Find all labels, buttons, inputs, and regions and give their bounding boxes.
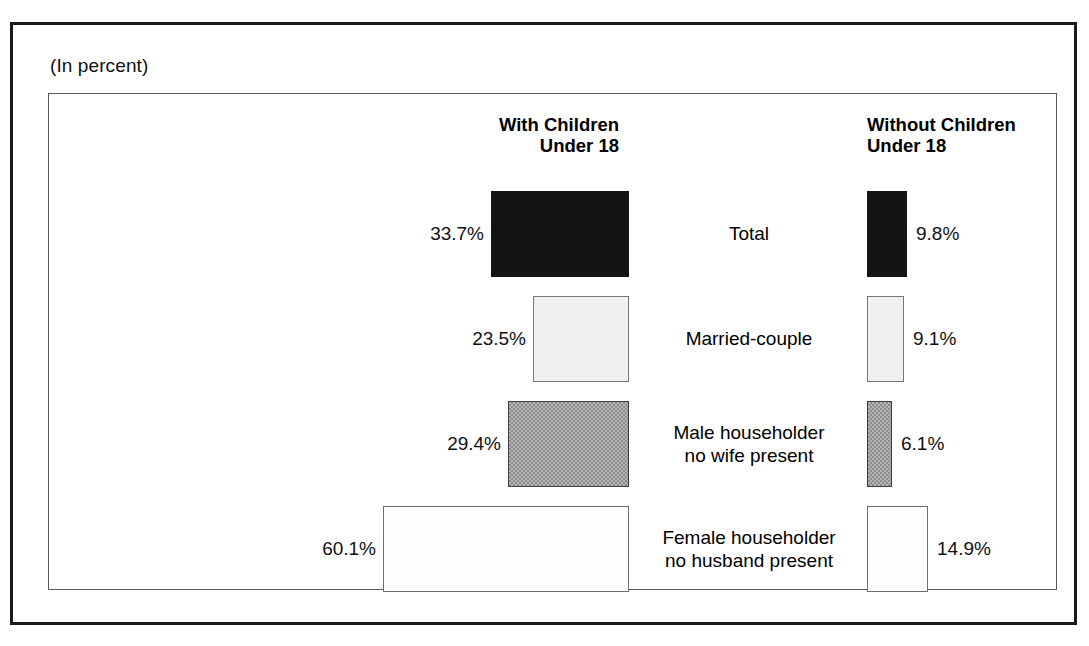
category-label: Female householder no husband present (631, 506, 867, 592)
chart-caption: (In percent) (50, 55, 148, 77)
value-label-left: 60.1% (266, 506, 376, 592)
chart-row: 23.5% Married-couple 9.1% (49, 296, 1056, 382)
value-label-right: 14.9% (937, 506, 1047, 592)
bar-left (383, 506, 629, 592)
chart-row: 60.1% Female householder no husband pres… (49, 506, 1056, 592)
chart-row: 33.7% Total 9.8% (49, 191, 1056, 277)
value-label-right: 9.1% (913, 296, 1023, 382)
value-label-left: 23.5% (416, 296, 526, 382)
figure-frame: (In percent) With Children Under 18 With… (10, 22, 1077, 625)
category-label: Total (631, 191, 867, 277)
bar-right (867, 506, 928, 592)
value-label-right: 6.1% (901, 401, 1011, 487)
bar-left (491, 191, 629, 277)
chart-row: 29.4% Male householder no wife present 6… (49, 401, 1056, 487)
plot-area: With Children Under 18 Without Children … (48, 93, 1057, 590)
value-label-right: 9.8% (916, 191, 1026, 277)
category-label: Male householder no wife present (631, 401, 867, 487)
bar-right (867, 296, 904, 382)
category-label: Married-couple (631, 296, 867, 382)
bar-left (533, 296, 629, 382)
column-header-without-children: Without Children Under 18 (867, 114, 1016, 157)
value-label-left: 29.4% (391, 401, 501, 487)
bar-right (867, 191, 907, 277)
column-header-with-children: With Children Under 18 (499, 114, 619, 157)
bar-right (867, 401, 892, 487)
value-label-left: 33.7% (374, 191, 484, 277)
bar-left (508, 401, 629, 487)
